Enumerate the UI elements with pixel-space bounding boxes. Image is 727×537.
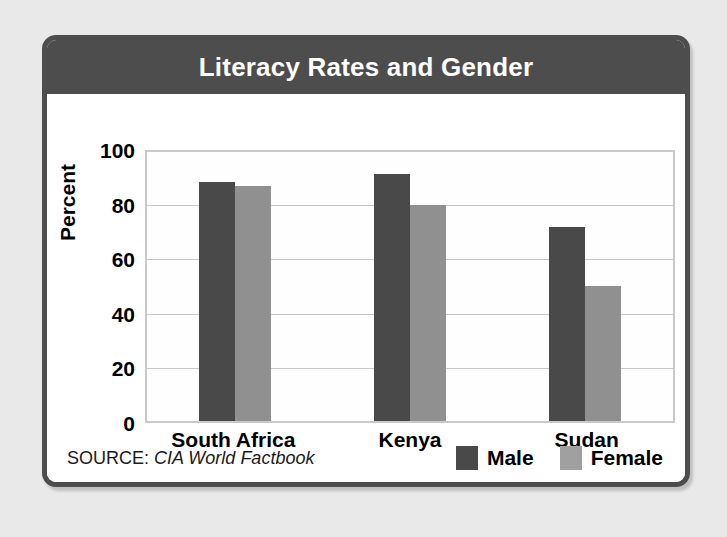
y-axis-tick-60: 60 (112, 249, 135, 270)
bar-sudan-male (549, 227, 585, 421)
legend-swatch-female-icon (560, 446, 582, 470)
y-axis-title: Percent (56, 211, 80, 241)
y-axis-tick-40: 40 (112, 303, 135, 324)
legend-label-male: Male (487, 446, 534, 470)
legend-label-female: Female (591, 446, 663, 470)
source-note: SOURCE: CIA World Factbook (67, 448, 314, 469)
legend-item-female: Female (560, 446, 663, 470)
bar-kenya-male (374, 174, 410, 421)
source-label: SOURCE: (67, 448, 149, 468)
plot-area (145, 150, 675, 423)
chart-legend: MaleFemale (456, 446, 669, 470)
y-axis-tick-labels: 020406080100 (83, 150, 139, 423)
page-title: Literacy Rates and Gender (199, 52, 533, 83)
bar-group-kenya (322, 152, 497, 421)
chart-footer: SOURCE: CIA World Factbook MaleFemale (47, 434, 685, 482)
y-axis-tick-20: 20 (112, 358, 135, 379)
bar-group-south-africa (147, 152, 322, 421)
y-axis-tick-80: 80 (112, 194, 135, 215)
bar-sudan-female (585, 286, 621, 421)
chart-title-bar: Literacy Rates and Gender (47, 40, 685, 94)
bar-south-africa-female (235, 186, 271, 421)
legend-swatch-male-icon (456, 446, 478, 470)
source-value: CIA World Factbook (154, 448, 314, 468)
bar-groups (147, 152, 673, 421)
chart-card: Literacy Rates and Gender Percent 020406… (42, 35, 690, 487)
chart-body: Percent 020406080100 South AfricaKenyaSu… (47, 94, 685, 482)
bar-group-sudan (498, 152, 673, 421)
y-axis-tick-100: 100 (100, 140, 135, 161)
bar-kenya-female (410, 205, 446, 421)
legend-item-male: Male (456, 446, 534, 470)
bar-south-africa-male (199, 182, 235, 421)
y-axis-tick-0: 0 (123, 413, 135, 434)
